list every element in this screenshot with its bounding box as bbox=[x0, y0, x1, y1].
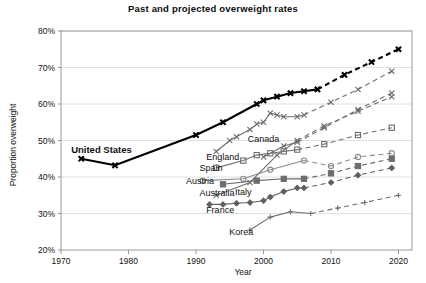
series-label-italy: Italy bbox=[235, 187, 252, 197]
data-point bbox=[247, 127, 252, 132]
overweight-rates-line-chart: 20%30%40%50%60%70%80% 197019801990200020… bbox=[0, 0, 426, 283]
data-point bbox=[295, 185, 300, 190]
x-tick-label: 1970 bbox=[52, 256, 71, 266]
x-tick-label: 2010 bbox=[322, 256, 341, 266]
chart-screenshot: Past and projected overweight rates 20%3… bbox=[0, 0, 426, 283]
data-point bbox=[355, 87, 360, 92]
series-label-canada: Canada bbox=[248, 134, 280, 144]
data-point bbox=[355, 154, 360, 159]
data-point bbox=[301, 185, 306, 190]
y-axis-title: Proportion overweight bbox=[8, 103, 18, 186]
series-label-austria: Austria bbox=[186, 176, 214, 186]
data-point bbox=[396, 193, 401, 198]
data-point bbox=[247, 200, 252, 205]
data-point bbox=[308, 211, 313, 216]
data-point bbox=[268, 194, 273, 199]
series-label-united-states: United States bbox=[71, 144, 132, 155]
data-point bbox=[335, 205, 340, 210]
series-label-france: France bbox=[206, 205, 234, 215]
projection-line bbox=[304, 159, 392, 179]
y-tick-label: 20% bbox=[38, 245, 55, 255]
series-layer bbox=[79, 47, 401, 233]
y-tick-label: 30% bbox=[38, 209, 55, 219]
data-point bbox=[220, 182, 225, 187]
data-point bbox=[301, 176, 306, 181]
projection-line bbox=[297, 128, 392, 150]
projection-line bbox=[304, 153, 392, 166]
series-england bbox=[214, 69, 395, 155]
y-tick-label: 70% bbox=[38, 63, 55, 73]
projection-line bbox=[318, 49, 399, 89]
y-tick-label: 80% bbox=[38, 26, 55, 36]
data-point bbox=[254, 178, 259, 183]
y-axis-ticks: 20%30%40%50%60%70%80% bbox=[38, 26, 61, 255]
data-point bbox=[281, 176, 286, 181]
data-point bbox=[362, 200, 367, 205]
projection-line bbox=[311, 195, 399, 213]
data-point bbox=[328, 171, 333, 176]
y-tick-label: 60% bbox=[38, 99, 55, 109]
series-label-spain: Spain bbox=[199, 163, 222, 173]
history-line bbox=[216, 141, 297, 196]
data-point bbox=[234, 201, 239, 206]
x-tick-label: 1980 bbox=[119, 256, 138, 266]
data-point bbox=[389, 165, 394, 170]
projection-line bbox=[304, 71, 392, 115]
data-point bbox=[261, 154, 266, 159]
x-tick-label: 2000 bbox=[254, 256, 273, 266]
data-point bbox=[268, 215, 273, 220]
data-point bbox=[328, 180, 333, 185]
data-point bbox=[261, 198, 266, 203]
data-point bbox=[234, 134, 239, 139]
projection-line bbox=[297, 97, 392, 141]
y-tick-label: 50% bbox=[38, 136, 55, 146]
series-labels: United StatesEnglandCanadaSpainAustriaAu… bbox=[71, 134, 279, 237]
series-label-korea: Korea bbox=[229, 227, 253, 237]
data-point bbox=[274, 153, 279, 158]
series-label-england: England bbox=[206, 152, 239, 162]
data-point bbox=[389, 156, 394, 161]
series-label-australia: Australia bbox=[199, 188, 234, 198]
history-line bbox=[250, 212, 311, 230]
y-tick-label: 40% bbox=[38, 172, 55, 182]
x-tick-label: 2020 bbox=[389, 256, 408, 266]
x-axis-ticks: 197019801990200020102020 bbox=[52, 250, 409, 266]
x-tick-label: 1990 bbox=[187, 256, 206, 266]
projection-line bbox=[304, 168, 392, 188]
x-axis-title: Year bbox=[234, 267, 251, 277]
data-point bbox=[281, 189, 286, 194]
data-point bbox=[389, 94, 394, 99]
data-point bbox=[389, 69, 394, 74]
data-point bbox=[355, 163, 360, 168]
